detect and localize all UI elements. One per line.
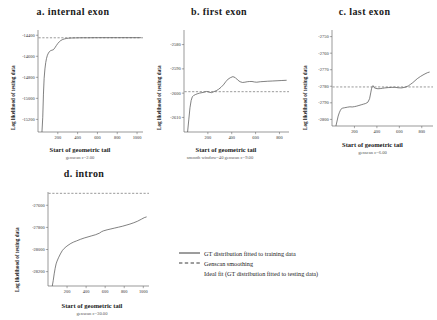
svg-text:800: 800 — [114, 135, 121, 140]
svg-text:-27800: -27800 — [32, 225, 45, 230]
legend-item-gt-distribution: GT distribution fitted to training data — [178, 248, 434, 258]
svg-text:1000: 1000 — [133, 135, 143, 140]
dashed-line-icon — [178, 260, 204, 266]
panel-a-plot: -14400-14600-14800-15000-152002004006008… — [12, 26, 146, 144]
svg-text:-2780: -2780 — [318, 84, 329, 89]
panel-b-xlabel: Start of geometric tail — [160, 146, 292, 153]
svg-text:400: 400 — [74, 135, 81, 140]
svg-text:-2770: -2770 — [318, 67, 329, 72]
svg-text:600: 600 — [102, 289, 109, 294]
legend-label-genscan-smoothing: Genscan smoothing — [204, 260, 253, 267]
panel-d-xlabel: Start of geometric tail — [20, 302, 164, 309]
panel-b-first-exon: b. first exon Log likelihood of testing … — [146, 2, 292, 162]
svg-text:-2600: -2600 — [170, 91, 181, 96]
panel-c-plot: -2750-2760-2770-2780-2790-28002004006008… — [306, 26, 436, 138]
svg-text:-2590: -2590 — [170, 66, 181, 71]
svg-text:-2610: -2610 — [170, 115, 181, 120]
panel-b-svg: -2580-2590-2600-2610200400600800 — [158, 26, 292, 144]
svg-text:200: 200 — [351, 129, 358, 134]
panel-b-plot: -2580-2590-2600-2610200400600800 — [158, 26, 292, 144]
svg-text:-2750: -2750 — [318, 34, 329, 39]
figure-panel-grid: a. internal exon Log likelihood of testi… — [0, 0, 437, 320]
svg-text:800: 800 — [418, 129, 425, 134]
svg-text:400: 400 — [374, 129, 381, 134]
svg-text:-2790: -2790 — [318, 100, 329, 105]
legend-item-ideal-fit: Ideal fit (GT distribution fitted to tes… — [178, 268, 434, 278]
svg-text:-28000: -28000 — [32, 247, 45, 252]
svg-text:-14800: -14800 — [22, 75, 35, 80]
svg-text:400: 400 — [228, 135, 235, 140]
svg-text:600: 600 — [396, 129, 403, 134]
svg-text:-2580: -2580 — [170, 42, 181, 47]
panel-a-internal-exon: a. internal exon Log likelihood of testi… — [0, 2, 146, 162]
panel-c-xlabel: Start of geometric tail — [308, 141, 437, 148]
svg-text:800: 800 — [121, 289, 128, 294]
panel-c-svg: -2750-2760-2770-2780-2790-28002004006008… — [306, 26, 436, 138]
panel-a-xlabel: Start of geometric tail — [14, 146, 146, 153]
svg-text:800: 800 — [276, 135, 283, 140]
panel-d-intron: d. intron Log likelihood of testing data… — [4, 162, 164, 320]
svg-text:200: 200 — [55, 135, 62, 140]
svg-text:-2800: -2800 — [318, 117, 329, 122]
svg-text:-28200: -28200 — [32, 269, 45, 274]
legend-label-ideal-fit: Ideal fit (GT distribution fitted to tes… — [204, 270, 318, 277]
solid-line-icon — [178, 250, 204, 256]
svg-text:200: 200 — [64, 289, 71, 294]
panel-c-last-exon: c. last exon Log likelihood of testing d… — [292, 2, 437, 162]
svg-text:-15000: -15000 — [22, 96, 35, 101]
panel-c-subcaption: genscan c=6.00 — [308, 150, 437, 155]
panel-a-title: a. internal exon — [0, 6, 146, 17]
panel-b-subcaption: smooth window=40 genscan c=9.00 — [148, 155, 292, 160]
svg-text:-14600: -14600 — [22, 54, 35, 59]
panel-d-subcaption: genscan c=30.00 — [20, 311, 164, 316]
svg-text:-14400: -14400 — [22, 33, 35, 38]
svg-text:600: 600 — [252, 135, 259, 140]
panel-d-svg: -27600-27800-28000-282002004006008001000 — [18, 188, 152, 298]
panel-d-title: d. intron — [4, 168, 164, 179]
svg-text:-2760: -2760 — [318, 51, 329, 56]
panel-c-title: c. last exon — [292, 6, 437, 17]
figure-legend: GT distribution fitted to training data … — [178, 248, 434, 278]
svg-text:200: 200 — [205, 135, 212, 140]
panel-d-plot: -27600-27800-28000-282002004006008001000 — [18, 188, 152, 298]
svg-text:-15200: -15200 — [22, 117, 35, 122]
svg-text:600: 600 — [94, 135, 101, 140]
panel-a-svg: -14400-14600-14800-15000-152002004006008… — [12, 26, 146, 144]
svg-text:1000: 1000 — [139, 289, 149, 294]
legend-item-genscan-smoothing: Genscan smoothing — [178, 258, 434, 268]
svg-text:-27600: -27600 — [32, 203, 45, 208]
svg-text:400: 400 — [83, 289, 90, 294]
legend-label-gt-distribution: GT distribution fitted to training data — [204, 250, 296, 257]
panel-b-title: b. first exon — [146, 6, 292, 17]
panel-a-subcaption: genscan c=2.00 — [14, 155, 146, 160]
